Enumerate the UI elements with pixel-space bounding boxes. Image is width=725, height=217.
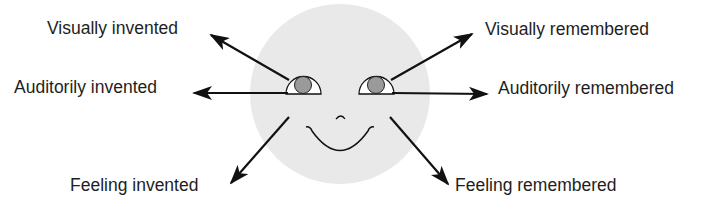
- label-feeling-invented: Feeling invented: [70, 177, 198, 195]
- label-auditorily-invented: Auditorily invented: [14, 79, 157, 97]
- label-visually-remembered: Visually remembered: [485, 21, 649, 39]
- label-auditorily-remembered: Auditorily remembered: [498, 80, 674, 98]
- arrow-auditorily-remembered: [392, 93, 487, 94]
- label-visually-invented: Visually invented: [47, 20, 178, 38]
- label-feeling-remembered: Feeling remembered: [455, 177, 616, 195]
